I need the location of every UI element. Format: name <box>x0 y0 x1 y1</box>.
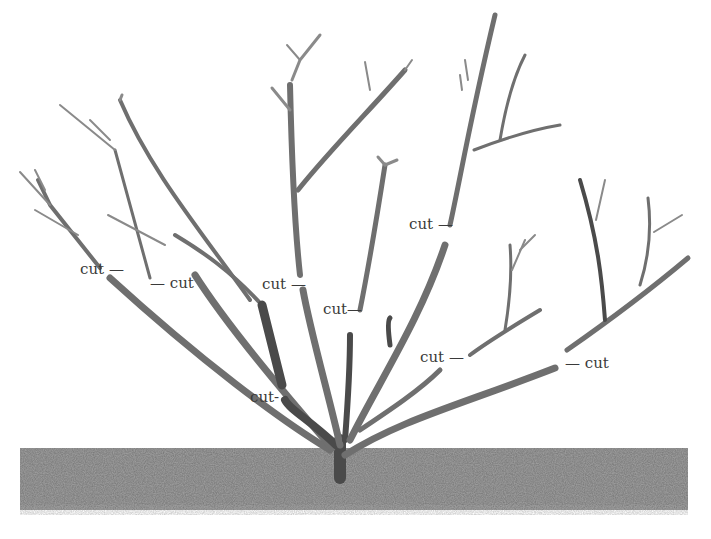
cut-label-5: cut — <box>409 217 453 232</box>
branch-center-tall <box>272 35 412 445</box>
soil-ground <box>20 448 688 515</box>
cut-label-3: cut — <box>262 277 306 292</box>
cut-label-8: cut- <box>250 390 279 405</box>
branch-far-left <box>20 170 330 450</box>
pruning-diagram: cut — — cut cut — cut— cut — cut — — cut… <box>0 0 711 539</box>
cut-label-1: cut — <box>80 262 124 277</box>
branch-far-right <box>345 180 688 455</box>
cut-label-2: — cut <box>150 276 194 291</box>
cut-label-7: — cut <box>565 356 609 371</box>
cut-label-6: cut — <box>420 350 464 365</box>
cut-label-4: cut— <box>323 302 362 317</box>
